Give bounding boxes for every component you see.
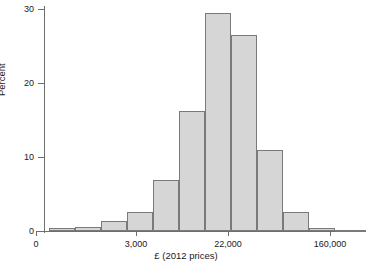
x-tick-label-0: 0	[33, 239, 38, 249]
x-axis-title: £ (2012 prices)	[0, 251, 372, 261]
y-tick-label-30: 30	[0, 5, 34, 14]
bar-1	[49, 228, 75, 231]
x-tick-mark-22000	[228, 231, 229, 236]
bar-3	[101, 221, 127, 231]
x-tick-mark-3000	[136, 231, 137, 236]
x-tick-label-160000: 160,000	[314, 239, 347, 249]
y-axis-line	[44, 6, 45, 233]
x-tick-label-3000: 3,000	[125, 239, 148, 249]
bar-2	[75, 227, 101, 231]
bar-6	[179, 111, 205, 231]
x-tick-mark-160000	[330, 231, 331, 236]
bar-7	[205, 13, 231, 231]
x-tick-label-22000: 22,000	[214, 239, 242, 249]
bar-10	[283, 212, 309, 231]
bar-12	[335, 230, 361, 232]
bar-4	[127, 212, 153, 231]
x-axis-line	[36, 231, 366, 232]
bar-5	[153, 180, 179, 231]
bar-11	[309, 228, 335, 231]
y-tick-label-10: 10	[0, 153, 34, 162]
bar-8	[231, 35, 257, 231]
bar-9	[257, 150, 283, 231]
x-tick-mark-0	[36, 231, 37, 236]
bar-13	[361, 230, 366, 232]
y-tick-label-0: 0	[0, 227, 34, 236]
histogram-chart: Percent 0 10 20 30 0 3,000 22,000 160,00…	[0, 0, 372, 264]
y-tick-label-20: 20	[0, 79, 34, 88]
